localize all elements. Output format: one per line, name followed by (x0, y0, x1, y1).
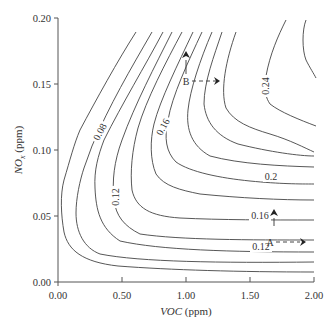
contour-chart: 0.20 0.15 0.10 0.05 0.00 0.00 0.50 1.00 … (0, 0, 335, 329)
y-tick-label: 0.20 (33, 13, 51, 24)
y-tick-label: 0.00 (33, 277, 51, 288)
contour-0.06 (76, 32, 314, 262)
contour-0.10 (113, 32, 314, 240)
contour-lines (61, 20, 316, 272)
contour-0.20 (204, 32, 314, 156)
x-tick-label: 1.00 (177, 290, 195, 301)
y-tick-label: 0.10 (33, 145, 51, 156)
arrow-up-icon (270, 209, 278, 216)
x-tick-labels: 0.00 0.50 1.00 1.50 2.00 (49, 290, 323, 301)
y-tick-label: 0.15 (33, 79, 51, 90)
point-b-label: B (183, 76, 190, 87)
contour-labels: 0.08 0.12 0.16 0.24 0.2 0.16 0.12 (90, 75, 279, 252)
arrow-right-icon (300, 238, 306, 246)
contour-label-0.20: 0.2 (265, 171, 278, 182)
point-a-label: A (266, 237, 274, 248)
contour-label-0.16-lower: 0.16 (251, 210, 269, 221)
y-axis-title: NOx (ppm) (12, 125, 27, 175)
y-tick-labels: 0.20 0.15 0.10 0.05 0.00 (33, 13, 51, 288)
contour-0.24 (265, 20, 316, 126)
annotation-a: A (266, 209, 306, 248)
x-tick-label: 0.00 (49, 290, 67, 301)
y-tick-label: 0.05 (33, 211, 51, 222)
contour-0.26 (303, 20, 316, 78)
contour-label-0.24: 0.24 (260, 77, 271, 95)
x-tick-label: 0.50 (113, 290, 131, 301)
x-tick-label: 1.50 (241, 290, 259, 301)
x-axis-title: VOC (ppm) (160, 305, 212, 318)
contour-label-0.12: 0.12 (110, 188, 121, 206)
x-tick-label: 2.00 (305, 290, 323, 301)
